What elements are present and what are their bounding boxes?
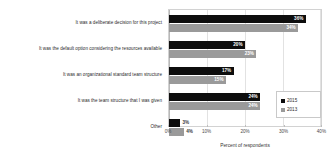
value-axis-title: Percent of respondents xyxy=(168,143,322,149)
xtick-label: 10% xyxy=(202,129,211,134)
plot-area: 36% 34% 20% 23% 17% 15% xyxy=(168,9,322,127)
bar-2013[interactable]: 34% xyxy=(169,24,298,32)
legend-swatch-icon xyxy=(281,99,285,103)
bar-2013[interactable]: 15% xyxy=(169,76,226,84)
legend-label: 2015 xyxy=(287,98,297,103)
xtick-label: 40% xyxy=(317,129,326,134)
bar-2015[interactable]: 17% xyxy=(169,67,234,75)
xtick-mark xyxy=(207,125,208,127)
bar-2015[interactable]: 24% xyxy=(169,93,260,101)
category-label: It was an organizational standard team s… xyxy=(0,72,162,77)
xtick-label: 30% xyxy=(279,129,288,134)
category-axis-labels: It was a deliberate decision for this pr… xyxy=(0,12,166,124)
bar-2013[interactable]: 23% xyxy=(169,50,256,58)
bar-2015[interactable]: 36% xyxy=(169,15,306,23)
bar-value-label: 23% xyxy=(245,52,254,57)
bar-2015[interactable]: 3% xyxy=(169,119,180,127)
legend-item-2015[interactable]: 2015 xyxy=(281,96,320,105)
bar-group: 36% 34% xyxy=(169,15,321,32)
category-label: Other xyxy=(0,124,162,129)
xtick-label: 20% xyxy=(240,129,249,134)
xtick-mark xyxy=(321,125,322,127)
bar-value-label: 3% xyxy=(182,121,189,126)
bar-value-label: 17% xyxy=(222,69,231,74)
bar-group: 20% 23% xyxy=(169,41,321,58)
bar-value-label: 34% xyxy=(286,26,295,31)
legend-swatch-icon xyxy=(281,108,285,112)
category-label: It was a deliberate decision for this pr… xyxy=(0,20,162,25)
category-label: It was the default option considering th… xyxy=(0,46,162,51)
bar-value-label: 36% xyxy=(294,17,303,22)
bar-group: 17% 15% xyxy=(169,67,321,84)
bar-2015[interactable]: 20% xyxy=(169,41,245,49)
xtick-mark xyxy=(168,125,169,127)
legend-item-2013[interactable]: 2013 xyxy=(281,105,320,114)
xtick-label: 0% xyxy=(165,129,172,134)
bar-value-label: 20% xyxy=(233,43,242,48)
bar-chart: It was a deliberate decision for this pr… xyxy=(0,0,336,161)
value-axis: 0% 10% 20% 30% 40% xyxy=(168,127,322,137)
legend-label: 2013 xyxy=(287,107,297,112)
bar-value-label: 24% xyxy=(248,95,257,100)
xtick-mark xyxy=(284,125,285,127)
bar-value-label: 24% xyxy=(248,104,257,109)
bar-value-label: 15% xyxy=(214,78,223,83)
xtick-mark xyxy=(245,125,246,127)
bar-2013[interactable]: 24% xyxy=(169,102,260,110)
legend: 2015 2013 xyxy=(276,91,321,118)
category-label: It was the team structure that I was giv… xyxy=(0,98,162,103)
